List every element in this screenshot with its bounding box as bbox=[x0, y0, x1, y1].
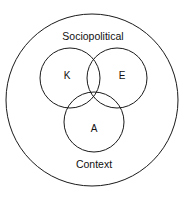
label-context: Context bbox=[76, 158, 112, 170]
venn-diagram: Sociopolitical K E A Context bbox=[0, 0, 186, 198]
circle-e bbox=[87, 48, 147, 108]
label-sociopolitical: Sociopolitical bbox=[62, 30, 123, 42]
circle-a bbox=[64, 92, 124, 152]
label-k: K bbox=[64, 70, 71, 81]
label-a: A bbox=[91, 123, 98, 134]
label-e: E bbox=[119, 70, 126, 81]
